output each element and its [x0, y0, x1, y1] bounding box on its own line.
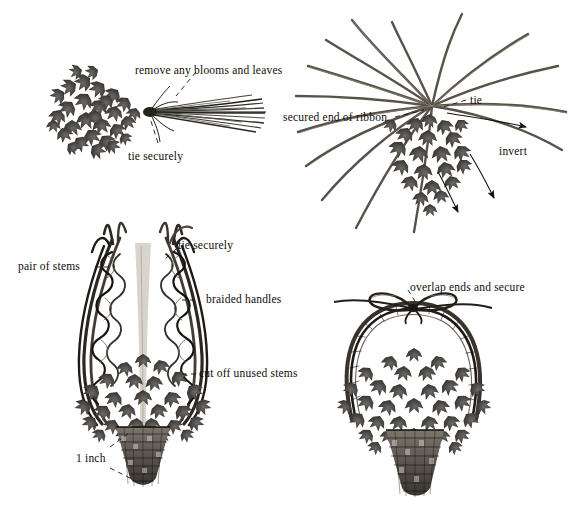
illustration-page: remove any blooms and leaves tie securel… — [0, 0, 579, 516]
basket-cone-step4 — [386, 430, 444, 497]
panel-4-artwork — [0, 0, 579, 516]
overlap-ends-label: overlap ends and secure — [410, 281, 525, 293]
